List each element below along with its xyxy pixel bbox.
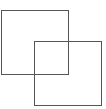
overlapping-squares-diagram <box>0 0 106 109</box>
